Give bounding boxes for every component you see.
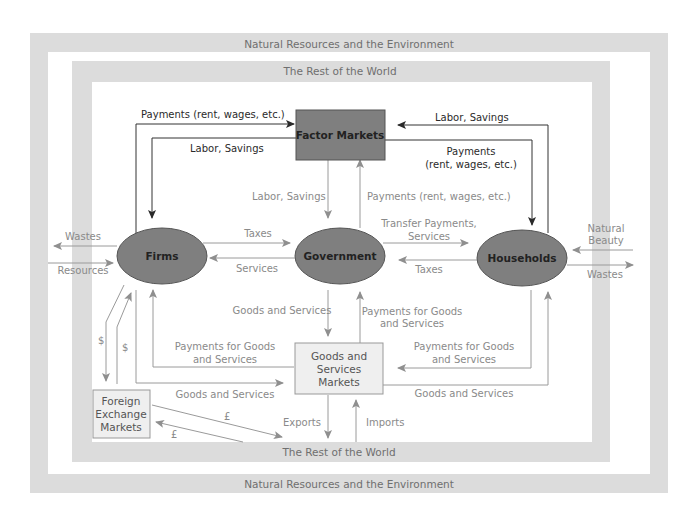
label-firms-resources: Resources bbox=[57, 265, 108, 276]
label-market-to-gov-payments-2: and Services bbox=[380, 318, 444, 329]
label-dollar-1: $ bbox=[98, 335, 104, 346]
label-gov-to-firms-services: Services bbox=[236, 263, 278, 274]
label-factor-to-households-payments-1: Payments bbox=[447, 146, 496, 157]
label-exports: Exports bbox=[283, 417, 321, 428]
circular-flow-diagram: Natural Resources and the Environment Na… bbox=[0, 0, 682, 514]
outer-frame-label-bottom: Natural Resources and the Environment bbox=[244, 478, 454, 490]
label-factor-to-gov-labor: Labor, Savings bbox=[252, 191, 326, 202]
foreign-exchange-markets-box[interactable]: Foreign Exchange Markets bbox=[93, 390, 150, 438]
outer-frame-label-top: Natural Resources and the Environment bbox=[244, 38, 454, 50]
inner-frame-label-bottom: The Rest of the World bbox=[281, 446, 395, 458]
label-pound-1: £ bbox=[224, 411, 230, 422]
label-gov-goods-services: Goods and Services bbox=[233, 305, 332, 316]
label-firms-to-gov-taxes: Taxes bbox=[243, 228, 272, 239]
label-pound-2: £ bbox=[171, 429, 177, 440]
label-households-to-market-payments-1: Payments for Goods bbox=[414, 341, 515, 352]
fx-label-line2: Exchange bbox=[95, 408, 146, 420]
label-dollar-2: $ bbox=[122, 342, 128, 353]
label-firms-goods-services: Goods and Services bbox=[176, 389, 275, 400]
label-transfer-payments-2: Services bbox=[408, 231, 450, 242]
government-node[interactable]: Government bbox=[295, 228, 385, 284]
fx-label-line3: Markets bbox=[100, 421, 142, 433]
label-households-to-factor-labor: Labor, Savings bbox=[435, 112, 509, 123]
label-factor-to-firms-labor: Labor, Savings bbox=[190, 143, 264, 154]
inner-frame-label-top: The Rest of the World bbox=[282, 65, 396, 77]
label-gov-to-factor-payments: Payments (rent, wages, etc.) bbox=[367, 191, 511, 202]
label-households-to-market-payments-2: and Services bbox=[432, 354, 496, 365]
label-market-to-firms-payments-2: and Services bbox=[193, 354, 257, 365]
households-node[interactable]: Households bbox=[477, 230, 567, 286]
label-firms-wastes: Wastes bbox=[65, 231, 101, 242]
goods-markets-label-line1: Goods and bbox=[311, 350, 367, 362]
label-households-wastes: Wastes bbox=[587, 269, 623, 280]
government-label: Government bbox=[303, 250, 376, 262]
firms-node[interactable]: Firms bbox=[117, 228, 207, 284]
label-market-to-gov-payments-1: Payments for Goods bbox=[362, 306, 463, 317]
factor-markets-label: Factor Markets bbox=[296, 129, 385, 141]
goods-markets-label-line3: Markets bbox=[318, 376, 360, 388]
goods-markets-label-line2: Services bbox=[317, 363, 361, 375]
label-factor-to-households-payments-2: (rent, wages, etc.) bbox=[425, 159, 517, 170]
label-transfer-payments-1: Transfer Payments, bbox=[380, 218, 477, 229]
label-natural-beauty-2: Beauty bbox=[588, 235, 623, 246]
label-market-to-firms-payments-1: Payments for Goods bbox=[175, 341, 276, 352]
label-households-to-gov-taxes: Taxes bbox=[414, 264, 443, 275]
label-imports: Imports bbox=[366, 417, 404, 428]
goods-services-markets-box[interactable]: Goods and Services Markets bbox=[295, 343, 383, 394]
label-natural-beauty-1: Natural bbox=[588, 223, 625, 234]
fx-label-line1: Foreign bbox=[102, 395, 141, 407]
factor-markets-box[interactable]: Factor Markets bbox=[296, 110, 385, 160]
firms-label: Firms bbox=[145, 250, 178, 262]
label-market-to-households-goods: Goods and Services bbox=[415, 388, 514, 399]
label-firms-to-factor-payments: Payments (rent, wages, etc.) bbox=[141, 109, 285, 120]
households-label: Households bbox=[488, 252, 557, 264]
